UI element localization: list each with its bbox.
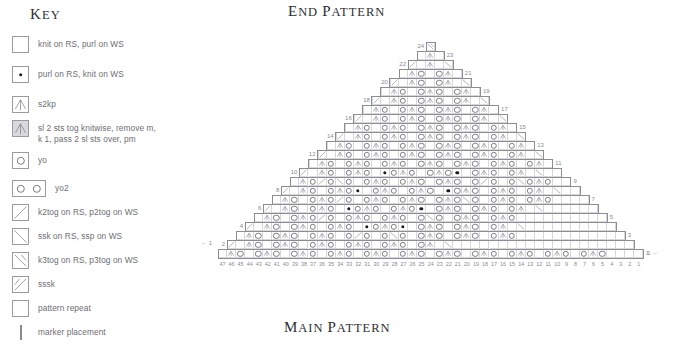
chart-cell [444,114,453,123]
chart-cell [571,195,580,204]
chart-cell [453,114,462,123]
s2kp-glyph [372,142,380,149]
chart-cell [363,231,372,240]
row-number-left: 4 [234,223,243,230]
yo-ring [309,214,315,220]
chart-cell [553,231,562,240]
chart-outline-left [299,168,300,177]
chart-cell [354,123,363,132]
chart-cell [345,213,354,222]
k2tog-glyph [480,178,488,185]
chart-cell [462,132,471,141]
key-item-purl-dot-square: purl on RS, knit on WS [12,66,124,83]
yo-ring [16,156,24,164]
s2kp-glyph [390,88,398,95]
s2kp-glyph [336,142,344,149]
yo-ring [291,250,297,256]
purl-dot-square [12,66,29,83]
s2kp-glyph [444,178,452,185]
chart-cell [372,96,381,105]
s2kp-glyph [480,142,488,149]
s2kp-glyph [372,178,380,185]
chart-cell [471,150,480,159]
chart-cell [354,150,363,159]
k2tog-glyph [391,79,398,86]
chart-cell [499,168,508,177]
chart-cell [408,105,417,114]
row-number-right: 15 [519,124,526,131]
yo-ring [418,106,424,112]
chart-cell [462,204,471,213]
s2kp-glyph [535,160,543,167]
chart-cell [408,177,417,186]
chart-cell [363,123,372,132]
s2kp-glyph [408,142,416,149]
yo-ring [373,187,379,193]
yo-ring [490,214,496,220]
chart-outline-right [462,69,463,78]
chart-cell [444,123,453,132]
chart-cell [372,114,381,123]
s2kp-glyph [435,169,443,176]
chart-cell [435,177,444,186]
chart-cell [580,240,589,249]
chart-cell [471,141,480,150]
s2kp-glyph [444,142,452,149]
yo-ring [409,205,415,211]
s2kp-glyph [517,142,525,149]
chart-cell [318,150,327,159]
yo-ring [418,241,424,247]
chart-cell [345,150,354,159]
ssk-glyph [535,205,543,212]
yo-ring [327,169,333,175]
chart-cell [417,114,426,123]
chart-cell [327,204,336,213]
chart-cell [390,168,399,177]
ssk-glyph [13,229,28,244]
chart-cell [462,177,471,186]
chart-page: KEY knit on RS, purl on WSpurl on RS, kn… [0,0,674,354]
chart-cell [372,231,381,240]
s2kp-glyph [336,223,344,230]
chart-cell [453,240,462,249]
chart-cell [616,240,625,249]
yo-ring [382,196,388,202]
chart-cell [363,213,372,222]
chart-cell [372,195,381,204]
k2tog-glyph [337,133,344,140]
chart-cell [553,195,562,204]
chart-cell [408,69,417,78]
chart-cell [336,213,345,222]
chart-cell [544,195,553,204]
chart-cell [426,51,435,60]
chart-cell [390,114,399,123]
yo-ring [527,196,533,202]
chart-cell [508,168,517,177]
yo-ring [418,142,424,148]
chart-cell [318,204,327,213]
chart-cell [426,60,435,69]
s2kp-glyph [227,250,235,257]
chart-cell [318,195,327,204]
yo-ring [490,196,496,202]
chart-cell [417,60,426,69]
chart-outline-right [634,240,635,249]
yo-ring [472,142,478,148]
chart-cell [444,87,453,96]
yo-ring [436,223,442,229]
yo-ring [400,88,406,94]
chart-cell [299,222,308,231]
chart-cell [480,105,489,114]
yo-ring [273,241,279,247]
chart-cell [354,195,363,204]
chart-cell [526,150,535,159]
s2kp-glyph [372,196,380,203]
chart-cell [598,222,607,231]
s2kp-glyph [444,115,452,122]
chart-cell [435,186,444,195]
chart-cell [408,96,417,105]
chart-cell [471,168,480,177]
chart-cell [490,195,499,204]
chart-cell [363,132,372,141]
s2kp-glyph [354,160,362,167]
